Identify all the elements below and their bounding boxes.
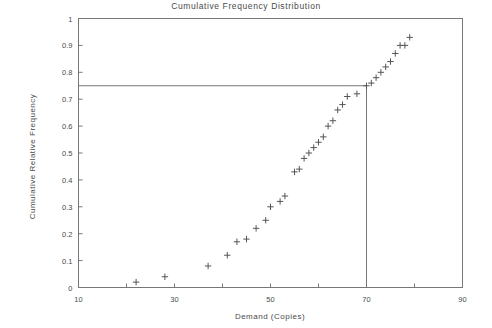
x-tick-label: 50: [266, 295, 274, 304]
axes-frame: [79, 19, 463, 288]
data-point: [320, 134, 326, 140]
data-point: [282, 193, 288, 199]
y-tick-label: 0.4: [31, 175, 73, 184]
data-point: [315, 139, 321, 145]
data-point: [373, 74, 379, 80]
x-tick-label: 70: [362, 295, 370, 304]
y-tick-label: 0.3: [31, 202, 73, 211]
data-point: [392, 50, 398, 56]
data-point: [344, 93, 350, 99]
data-point: [339, 101, 345, 107]
data-point: [383, 64, 389, 70]
data-point: [354, 91, 360, 97]
x-tick-label: 30: [170, 295, 178, 304]
y-tick-label: 0.5: [31, 149, 73, 158]
data-point: [402, 42, 408, 48]
data-point: [267, 204, 273, 210]
y-tick-label: 0.8: [31, 68, 73, 77]
y-tick-label: 0.2: [31, 229, 73, 238]
data-point: [243, 236, 249, 242]
y-tick-label: 1: [31, 14, 73, 23]
data-point: [335, 107, 341, 113]
plot-canvas: [0, 0, 492, 328]
data-point: [378, 69, 384, 75]
data-point: [263, 217, 269, 223]
data-point: [306, 150, 312, 156]
data-point: [387, 58, 393, 64]
data-point: [277, 198, 283, 204]
data-point: [205, 263, 211, 269]
y-tick-label: 0.7: [31, 95, 73, 104]
percentile-reference-line: [79, 86, 367, 288]
y-tick-label: 0.9: [31, 41, 73, 50]
data-point: [253, 225, 259, 231]
data-point: [325, 123, 331, 129]
tick-marks: [79, 19, 463, 288]
chart-figure: Cumulative Frequency Distribution Cumula…: [0, 0, 492, 328]
data-point: [234, 239, 240, 245]
data-point: [224, 252, 230, 258]
data-point-markers: [133, 34, 413, 285]
data-point: [407, 34, 413, 40]
data-point: [301, 155, 307, 161]
data-point: [133, 279, 139, 285]
data-point: [330, 118, 336, 124]
x-tick-label: 10: [74, 295, 82, 304]
data-point: [162, 274, 168, 280]
y-tick-label: 0: [31, 283, 73, 292]
y-tick-label: 0.6: [31, 122, 73, 131]
data-point: [311, 144, 317, 150]
x-tick-label: 90: [458, 295, 466, 304]
y-tick-label: 0.1: [31, 256, 73, 265]
